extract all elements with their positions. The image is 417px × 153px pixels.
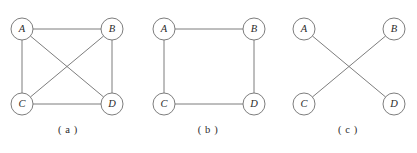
graph-node-a: A [11, 18, 33, 40]
graph-panel: ABCD( a ) [11, 18, 123, 136]
graph-node-d: D [101, 93, 123, 115]
node-label: A [18, 23, 26, 34]
graph-panel: ABCD( c ) [293, 18, 405, 136]
node-label: A [160, 23, 168, 34]
node-label: B [391, 23, 398, 34]
graph-node-c: C [153, 93, 175, 115]
figure-root: ABCD( a )ABCD( b )ABCD( c ) [0, 0, 417, 153]
graph-node-a: A [293, 18, 315, 40]
node-label: D [107, 98, 116, 109]
node-label: D [389, 98, 398, 109]
graph-node-a: A [153, 18, 175, 40]
node-label: D [249, 98, 258, 109]
graph-node-b: B [101, 18, 123, 40]
graph-node-c: C [293, 93, 315, 115]
graph-node-c: C [11, 93, 33, 115]
node-label: C [300, 98, 308, 109]
graph-node-b: B [243, 18, 265, 40]
graph-node-d: D [383, 93, 405, 115]
panel-caption: ( a ) [58, 124, 78, 136]
panel-caption: ( b ) [198, 124, 219, 136]
panel-caption: ( c ) [338, 124, 358, 136]
graph-diagram-canvas: ABCD( a )ABCD( b )ABCD( c ) [0, 0, 417, 153]
node-label: C [18, 98, 26, 109]
node-label: A [300, 23, 308, 34]
graph-node-b: B [383, 18, 405, 40]
graph-panel: ABCD( b ) [153, 18, 265, 136]
node-label: B [109, 23, 116, 34]
graph-node-d: D [243, 93, 265, 115]
node-label: C [160, 98, 168, 109]
node-label: B [251, 23, 258, 34]
